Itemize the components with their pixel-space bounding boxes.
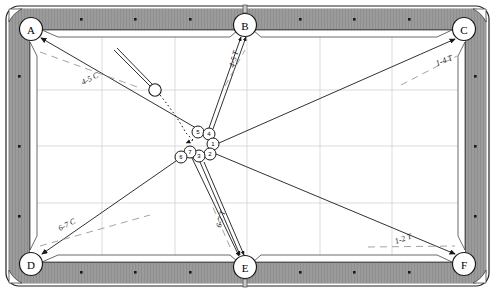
cloth-grid — [30, 30, 465, 262]
pocket-C[interactable]: C — [453, 18, 476, 41]
pocket-E[interactable]: E — [234, 256, 257, 279]
pocket-E-label: E — [242, 262, 249, 274]
cue-ball[interactable] — [149, 84, 161, 96]
pocket-B-label: B — [241, 20, 248, 32]
pocket-F-label: F — [461, 259, 467, 271]
pocket-C-label: C — [460, 24, 467, 36]
billiard-diagram-root: 5 4 1 2 3 7 6 4-5 C 4-5 T 1-4 T — [0, 0, 495, 292]
pocket-F[interactable]: F — [453, 253, 476, 276]
pocket-D-label: D — [27, 259, 35, 271]
pocket-A-label: A — [27, 24, 35, 36]
ball-2[interactable]: 2 — [204, 148, 216, 160]
ball-6[interactable]: 6 — [175, 151, 187, 163]
pocket-B[interactable]: B — [234, 14, 257, 37]
pocket-A[interactable]: A — [20, 18, 43, 41]
ball-5[interactable]: 5 — [192, 126, 204, 138]
pocket-D[interactable]: D — [20, 253, 43, 276]
